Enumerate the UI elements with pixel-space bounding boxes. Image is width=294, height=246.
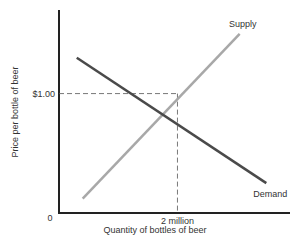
y-tick-label: $1.00 <box>32 89 55 99</box>
y-axis-title: Price per bottle of beer <box>10 66 20 157</box>
supply-line <box>83 34 240 199</box>
x-axis-title: Quantity of bottles of beer <box>103 225 206 235</box>
origin-label: 0 <box>47 213 52 223</box>
demand-label: Demand <box>253 189 287 199</box>
supply-label: Supply <box>229 19 257 29</box>
demand-line <box>77 58 267 183</box>
supply-demand-chart: Supply Demand $1.00 2 million 0 Quantity… <box>0 0 294 246</box>
